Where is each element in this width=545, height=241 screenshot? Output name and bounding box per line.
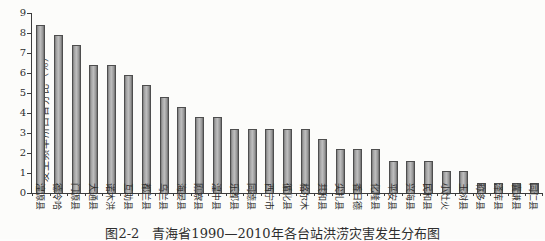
bar	[142, 85, 151, 193]
x-axis-label: 诺木洪	[103, 183, 117, 225]
bar	[89, 65, 98, 193]
x-axis-label: 格尔木	[297, 183, 311, 225]
y-tick-label: 2	[10, 148, 26, 158]
bar	[160, 97, 169, 193]
bar	[124, 75, 133, 193]
y-tick-mark	[27, 53, 31, 54]
y-tick-label: 1	[10, 168, 26, 178]
bar	[107, 65, 116, 193]
y-tick-label: 0	[10, 188, 26, 198]
x-axis-label: 德令哈	[50, 183, 64, 225]
y-tick-mark	[27, 193, 31, 194]
x-tick-mark	[542, 193, 543, 196]
x-axis-label: 乌兰县	[156, 183, 170, 225]
bar	[36, 25, 45, 193]
x-axis-label: 香日德	[350, 183, 364, 225]
bar	[177, 107, 186, 193]
x-axis-label: 海晏县	[174, 183, 188, 225]
x-axis-label: 门源县	[68, 183, 82, 225]
x-axis-label: 民和县	[420, 183, 434, 225]
y-tick-mark	[27, 13, 31, 14]
x-axis-label: 湟中县	[209, 183, 223, 225]
y-tick-label: 9	[10, 8, 26, 18]
x-axis-label: 湟源县	[33, 183, 47, 225]
x-axis-label: 泽库县	[491, 183, 505, 225]
y-tick-label: 7	[10, 48, 26, 58]
x-axis-label: 同德县	[244, 183, 258, 225]
x-axis-label: 称多县	[473, 183, 487, 225]
plot-area: 发生频率所占百分比（%） 0123456789	[31, 13, 543, 194]
x-axis-label: 尖扎县	[332, 183, 346, 225]
y-tick-mark	[27, 173, 31, 174]
y-tick-mark	[27, 153, 31, 154]
x-axis-label: 都兰县	[139, 183, 153, 225]
x-axis-label: 大通县	[86, 183, 100, 225]
x-axis-label: 互助县	[121, 183, 135, 225]
y-tick-label: 4	[10, 108, 26, 118]
x-axis-label: 共和县	[315, 183, 329, 225]
x-axis-label: 玉树县	[456, 183, 470, 225]
x-axis-label: 化隆县	[368, 183, 382, 225]
bar	[54, 35, 63, 193]
x-axis-label: 兴海县	[403, 183, 417, 225]
figure-caption: 图2-2 青海省1990—2010年各台站洪涝灾害发生分布图	[0, 226, 545, 241]
x-axis-label: 乐都县	[227, 183, 241, 225]
bar	[213, 117, 222, 193]
bar	[72, 45, 81, 193]
x-axis-label: 刚察县	[191, 183, 205, 225]
y-tick-label: 3	[10, 128, 26, 138]
y-tick-mark	[27, 113, 31, 114]
y-tick-mark	[27, 133, 31, 134]
y-tick-label: 8	[10, 28, 26, 38]
y-tick-label: 5	[10, 88, 26, 98]
x-axis-label: 西宁市	[262, 183, 276, 225]
x-axis-label: 小灶火	[438, 183, 452, 225]
bar	[195, 117, 204, 193]
y-tick-mark	[27, 73, 31, 74]
x-axis-label: 囊谦县	[509, 183, 523, 225]
x-axis-label: 平安县	[385, 183, 399, 225]
x-axis-label: 循化县	[280, 183, 294, 225]
y-tick-mark	[27, 93, 31, 94]
x-axis-label: 同仁县	[526, 183, 540, 225]
y-tick-label: 6	[10, 68, 26, 78]
y-tick-mark	[27, 33, 31, 34]
